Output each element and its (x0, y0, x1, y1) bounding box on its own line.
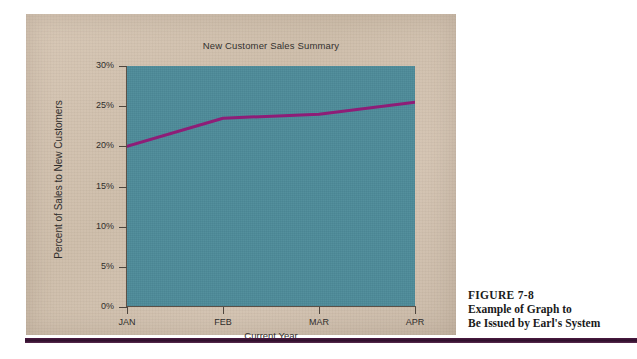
y-axis-tick (119, 106, 127, 107)
chart-title: New Customer Sales Summary (127, 40, 415, 51)
x-axis-tick-label: MAR (294, 317, 344, 327)
y-axis-tick (119, 267, 127, 268)
figure-caption-line-2: Be Issued by Earl's System (468, 316, 637, 330)
page-bottom-rule (25, 338, 637, 343)
x-axis-tick-label: FEB (198, 317, 248, 327)
x-axis-tick (415, 307, 416, 314)
y-axis-tick-label: 5% (66, 261, 114, 271)
y-axis-tick-label: 15% (66, 181, 114, 191)
y-axis-tick (119, 66, 127, 67)
x-axis-tick (223, 307, 224, 314)
y-axis-tick (119, 187, 127, 188)
figure-number: FIGURE 7-8 (468, 288, 637, 302)
y-axis-tick-label: 10% (66, 221, 114, 231)
x-axis-tick (127, 307, 128, 314)
y-axis-tick-label: 25% (66, 100, 114, 110)
x-axis-tick-label: JAN (102, 317, 152, 327)
figure-caption-line-1: Example of Graph to (468, 302, 637, 316)
y-axis-title: Percent of Sales to New Customers (53, 70, 64, 290)
y-axis-tick (119, 227, 127, 228)
figure-caption: FIGURE 7-8 Example of Graph to Be Issued… (468, 288, 637, 330)
sales-trend-line (127, 102, 415, 146)
y-axis-tick-label: 30% (66, 60, 114, 70)
series-line-svg (127, 66, 415, 307)
x-axis-tick (319, 307, 320, 314)
chart-plot-area (127, 66, 415, 307)
x-axis-tick-label: APR (390, 317, 440, 327)
y-axis-tick-label: 20% (66, 140, 114, 150)
y-axis-tick (119, 307, 127, 308)
y-axis-tick (119, 146, 127, 147)
figure-panel: New Customer Sales Summary 0%5%10%15%20%… (26, 14, 456, 335)
x-axis-line (127, 306, 416, 307)
y-axis-tick-label: 0% (66, 301, 114, 311)
